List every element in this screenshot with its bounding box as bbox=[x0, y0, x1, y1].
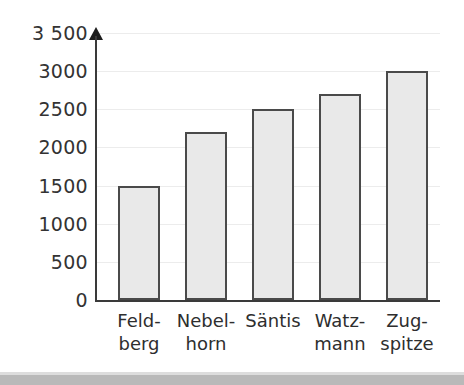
bar-nebelhorn bbox=[185, 132, 227, 300]
x-label-saentis: Säntis bbox=[241, 309, 305, 332]
y-tick-label-2500: 2500 bbox=[16, 100, 88, 119]
y-tick-label-1000: 1000 bbox=[16, 215, 88, 234]
x-label-watzmann: Watz- mann bbox=[308, 309, 372, 355]
x-label-zugspitze: Zug- spitze bbox=[375, 309, 439, 355]
plot-area: 3 500 3000 2500 2000 1500 1000 500 0 bbox=[0, 0, 464, 385]
x-axis-line bbox=[95, 300, 440, 302]
x-label-nebelhorn: Nebel- horn bbox=[174, 309, 238, 355]
bar-feldberg bbox=[118, 186, 160, 300]
bar-saentis bbox=[252, 109, 294, 300]
y-tick-label-1500: 1500 bbox=[16, 177, 88, 196]
y-tick-label-0: 0 bbox=[16, 291, 88, 310]
bar-chart-figure: 3 500 3000 2500 2000 1500 1000 500 0 bbox=[0, 0, 464, 385]
y-tick-label-500: 500 bbox=[16, 253, 88, 272]
gridline-3500 bbox=[95, 33, 440, 34]
bar-watzmann bbox=[319, 94, 361, 300]
y-tick-label-2000: 2000 bbox=[16, 138, 88, 157]
y-tick-label-3000: 3000 bbox=[16, 62, 88, 81]
y-tick-label-3500: 3 500 bbox=[16, 24, 88, 43]
page-edge-band bbox=[0, 375, 464, 385]
x-label-feldberg: Feld- berg bbox=[109, 309, 169, 355]
bar-zugspitze bbox=[386, 71, 428, 300]
y-axis-line bbox=[95, 36, 97, 301]
